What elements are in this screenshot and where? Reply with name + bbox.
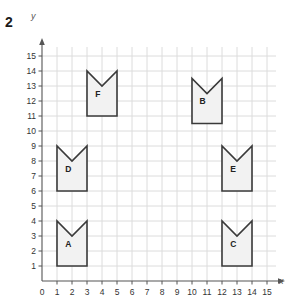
shape-label-b: B: [200, 96, 206, 106]
svg-text:9: 9: [175, 287, 180, 297]
plot-svg: 0123456789101112131415123456789101112131…: [0, 0, 290, 302]
svg-text:1: 1: [55, 287, 60, 297]
svg-text:3: 3: [31, 231, 36, 241]
shapes-group: ABCDEF: [57, 71, 252, 266]
svg-text:2: 2: [31, 246, 36, 256]
svg-text:10: 10: [27, 126, 37, 136]
svg-text:8: 8: [31, 156, 36, 166]
svg-text:12: 12: [217, 287, 227, 297]
svg-text:0: 0: [40, 287, 45, 297]
svg-text:10: 10: [187, 287, 197, 297]
svg-text:9: 9: [31, 141, 36, 151]
svg-text:13: 13: [27, 81, 37, 91]
shape-label-c: C: [230, 239, 236, 249]
svg-text:1: 1: [31, 261, 36, 271]
svg-text:15: 15: [27, 51, 37, 61]
svg-text:7: 7: [31, 171, 36, 181]
svg-text:14: 14: [247, 287, 257, 297]
svg-text:2: 2: [70, 287, 75, 297]
svg-text:5: 5: [31, 201, 36, 211]
svg-text:11: 11: [203, 287, 212, 297]
svg-text:4: 4: [100, 287, 105, 297]
svg-text:3: 3: [85, 287, 90, 297]
svg-text:13: 13: [232, 287, 242, 297]
shape-label-a: A: [65, 239, 71, 249]
svg-text:14: 14: [27, 66, 37, 76]
shape-label-e: E: [230, 164, 236, 174]
svg-text:6: 6: [130, 287, 135, 297]
coordinate-grid-figure: 2 y x 0123456789101112131415123456789101…: [0, 0, 290, 302]
svg-text:6: 6: [31, 186, 36, 196]
svg-text:4: 4: [31, 216, 36, 226]
svg-text:8: 8: [160, 287, 165, 297]
svg-text:11: 11: [27, 111, 36, 121]
shape-label-f: F: [95, 89, 100, 99]
svg-text:7: 7: [145, 287, 150, 297]
shape-label-d: D: [65, 164, 71, 174]
svg-text:5: 5: [115, 287, 120, 297]
svg-text:15: 15: [262, 287, 272, 297]
svg-text:12: 12: [27, 96, 37, 106]
